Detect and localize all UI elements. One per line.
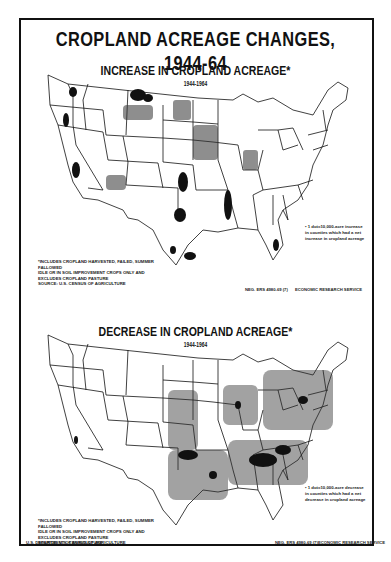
decrease-map	[28, 330, 368, 540]
increase-dot-clusters	[63, 87, 279, 260]
decrease-agency: ECONOMIC RESEARCH SERVICE	[318, 540, 385, 545]
increase-neg-number: NEG. ERS 4980-69 (7)	[245, 287, 288, 292]
decrease-map-legend: • 1 dot=10,000-acre decrease in counties…	[305, 485, 367, 503]
increase-map-legend: • 1 dot=10,000-acre increase in counties…	[305, 224, 367, 242]
increase-map	[28, 70, 368, 280]
department-credit: U.S. DEPARTMENT OF AGRICULTURE	[26, 540, 102, 545]
increase-map-footnote: *INCLUDES CROPLAND HARVESTED, FAILED, SU…	[38, 259, 178, 287]
decrease-neg-number: NEG. ERS 4980-69 (7)	[275, 540, 318, 545]
us-state-outlines	[48, 75, 348, 265]
increase-agency: ECONOMIC RESEARCH SERVICE	[295, 287, 362, 292]
